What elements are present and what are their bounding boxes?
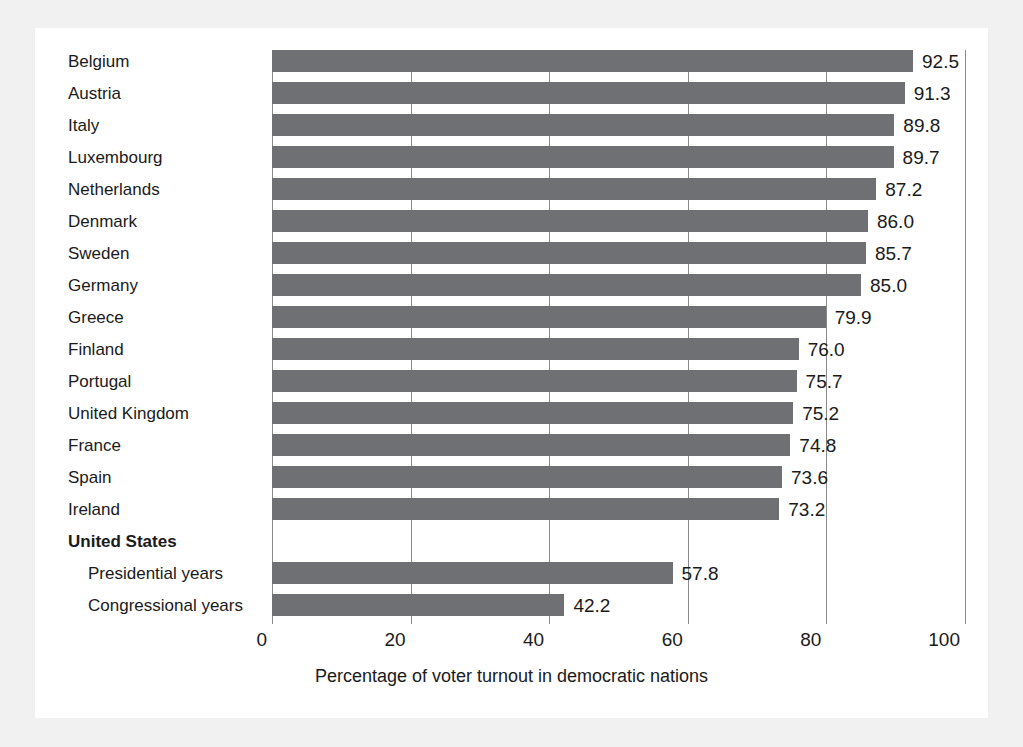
bar-value-label: 76.0 [808,340,845,359]
bar-value-label: 57.8 [682,564,719,583]
bar-value-label: 42.2 [573,596,610,615]
bar-value-label: 89.8 [903,116,940,135]
x-tick-label: 60 [662,630,688,649]
bar [272,274,861,296]
category-label: United Kingdom [68,405,189,422]
bar-row: France74.8 [35,434,988,456]
category-label: Finland [68,341,124,358]
bar-row: Luxembourg89.7 [35,146,988,168]
category-label: Belgium [68,53,129,70]
x-tick-label: 100 [928,630,965,649]
bar [272,594,564,616]
figure-card: 020406080100 Belgium92.5Austria91.3Italy… [35,28,988,718]
bar-row: Greece79.9 [35,306,988,328]
category-label: France [68,437,121,454]
bar-value-label: 85.0 [870,276,907,295]
bar [272,466,782,488]
category-label: Luxembourg [68,149,163,166]
x-tick-label: 0 [256,630,272,649]
bar [272,434,790,456]
bar-row: Congressional years42.2 [35,594,988,616]
bar-row: Austria91.3 [35,82,988,104]
category-label: Portugal [68,373,131,390]
bar [272,242,866,264]
x-tick-label: 40 [523,630,549,649]
bar-row: Portugal75.7 [35,370,988,392]
category-label: Italy [68,117,99,134]
bar-row: Spain73.6 [35,466,988,488]
bar-row: Italy89.8 [35,114,988,136]
bar-value-label: 91.3 [914,84,951,103]
bar-row: Netherlands87.2 [35,178,988,200]
bar-value-label: 73.2 [788,500,825,519]
category-label: Congressional years [88,597,243,614]
bar-value-label: 73.6 [791,468,828,487]
bar [272,114,894,136]
bar-value-label: 89.7 [903,148,940,167]
bar [272,562,673,584]
x-tick-label: 80 [800,630,826,649]
bar-row: Germany85.0 [35,274,988,296]
category-label: Presidential years [88,565,223,582]
x-tick-label: 20 [384,630,410,649]
category-label: Austria [68,85,121,102]
bar [272,82,905,104]
category-label: Greece [68,309,124,326]
bar-value-label: 85.7 [875,244,912,263]
bar-chart: 020406080100 Belgium92.5Austria91.3Italy… [35,28,988,718]
bar-value-label: 75.2 [802,404,839,423]
bar [272,306,826,328]
bar-value-label: 92.5 [922,52,959,71]
category-label: Netherlands [68,181,160,198]
bar-row: Ireland73.2 [35,498,988,520]
bar-row: Denmark86.0 [35,210,988,232]
bar [272,178,876,200]
bar [272,498,779,520]
category-label: Germany [68,277,138,294]
bar [272,210,868,232]
bar [272,146,894,168]
category-label: Sweden [68,245,129,262]
bar-value-label: 87.2 [885,180,922,199]
group-header-row: United States [35,530,988,552]
bar-row: United Kingdom75.2 [35,402,988,424]
bar [272,338,799,360]
bar-row: Belgium92.5 [35,50,988,72]
bar-row: Finland76.0 [35,338,988,360]
bar [272,370,797,392]
bar [272,402,793,424]
bar [272,50,913,72]
category-label: United States [68,533,177,550]
bar-value-label: 75.7 [806,372,843,391]
category-label: Denmark [68,213,137,230]
bar-value-label: 86.0 [877,212,914,231]
bar-row: Presidential years57.8 [35,562,988,584]
category-label: Spain [68,469,111,486]
x-axis-label: Percentage of voter turnout in democrati… [35,666,988,687]
bar-value-label: 79.9 [835,308,872,327]
bar-value-label: 74.8 [799,436,836,455]
category-label: Ireland [68,501,120,518]
bar-row: Sweden85.7 [35,242,988,264]
